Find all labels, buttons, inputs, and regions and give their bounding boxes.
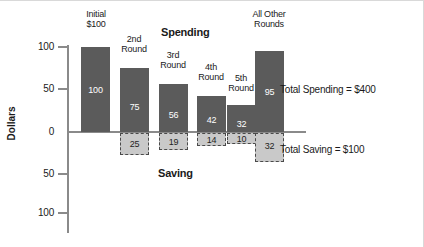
bar-caption-line2: $100 xyxy=(86,19,105,29)
bar-caption-line2: Round xyxy=(121,44,147,54)
bar-value-spending-4th-round: 42 xyxy=(197,115,226,125)
saving-section-label: Saving xyxy=(158,167,193,179)
bar-caption-line2: Round xyxy=(228,83,254,93)
bar-value-spending-2nd-round: 75 xyxy=(120,102,149,112)
bar-value-saving-5th-round: 10 xyxy=(227,134,256,144)
y-tick-mark-50-upper xyxy=(58,88,67,90)
bar-caption-2nd-round: 2nd Round xyxy=(112,34,156,54)
bar-caption-line1: 4th xyxy=(205,62,217,72)
total-spending-annotation: Total Spending = $400 xyxy=(280,84,376,95)
bar-caption-line1: 3rd xyxy=(167,50,179,60)
y-tick-label-50-lower: 50 xyxy=(22,168,54,179)
bar-value-spending-5th-round: 32 xyxy=(227,119,256,129)
bar-caption-line2: Rounds xyxy=(254,19,284,29)
spending-section-label: Spending xyxy=(161,26,210,38)
chart-canvas: Dollars 100 50 0 50 100 Initial $100 100… xyxy=(0,0,424,247)
bar-value-saving-4th-round: 14 xyxy=(197,135,226,145)
y-tick-label-50-upper: 50 xyxy=(22,83,54,94)
bar-value-spending-3rd-round: 56 xyxy=(159,110,188,120)
y-tick-mark-100-upper xyxy=(58,46,67,48)
bar-spending-2nd-round[interactable] xyxy=(120,68,149,132)
bar-spending-4th-round[interactable] xyxy=(197,96,226,132)
y-tick-mark-50-lower xyxy=(58,173,67,175)
y-tick-label-100-upper: 100 xyxy=(22,41,54,52)
y-axis-title: Dollars xyxy=(6,94,17,154)
y-tick-label-100-lower: 100 xyxy=(22,207,54,218)
bar-value-spending-initial: 100 xyxy=(81,85,110,95)
bar-caption-all-other-rounds: All Other Rounds xyxy=(238,9,300,29)
bar-value-saving-3rd-round: 19 xyxy=(159,137,188,147)
y-tick-mark-100-lower xyxy=(58,212,67,214)
bar-caption-line2: Round xyxy=(160,60,186,70)
y-tick-label-0: 0 xyxy=(22,126,54,137)
total-saving-annotation: Total Saving = $100 xyxy=(280,144,364,155)
bar-caption-line1: All Other xyxy=(252,9,285,19)
bar-caption-initial: Initial $100 xyxy=(74,9,118,29)
bar-caption-line1: 2nd xyxy=(127,34,141,44)
bar-caption-line1: 5th xyxy=(235,73,247,83)
bar-caption-line1: Initial xyxy=(86,9,106,19)
y-axis-line xyxy=(67,45,69,233)
bar-spending-3rd-round[interactable] xyxy=(159,84,188,132)
bar-value-saving-2nd-round: 25 xyxy=(120,139,149,149)
